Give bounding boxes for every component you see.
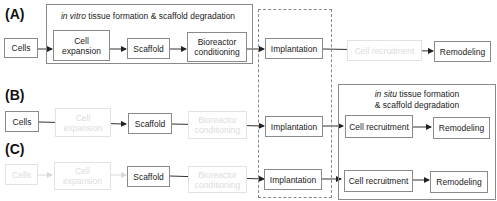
- step-cell-expansion-a: Cellexpansion: [53, 30, 110, 61]
- step-label: Bioreactor: [198, 170, 237, 180]
- step-cell-recruitment-a: Cell recruitment: [347, 40, 422, 61]
- caption-italic: in vitro: [61, 11, 86, 21]
- in-vitro-caption: in vitro tissue formation & scaffold deg…: [48, 11, 248, 22]
- step-cells-c: Cells: [5, 164, 38, 185]
- step-label: Scaffold: [133, 44, 164, 54]
- step-label: Cell: [74, 36, 89, 46]
- step-label: Scaffold: [135, 119, 166, 129]
- step-cell-expansion-b: Cellexpansion: [55, 108, 111, 137]
- step-label: expansion: [63, 176, 102, 186]
- step-label: Implantation: [271, 122, 317, 132]
- step-cells-b: Cells: [5, 111, 39, 132]
- step-remodeling-b: Remodeling: [433, 117, 490, 139]
- step-label: Remodeling: [440, 47, 485, 57]
- caption-line2: & scaffold degradation: [340, 100, 494, 111]
- step-label: Bioreactor: [198, 115, 237, 125]
- in-situ-caption: in situ tissue formation & scaffold degr…: [340, 89, 494, 111]
- step-label: Implantation: [270, 175, 316, 185]
- step-label: Remodeling: [439, 123, 484, 133]
- step-remodeling-c: Remodeling: [430, 171, 488, 193]
- panel-label-b: (B): [5, 87, 24, 103]
- step-implantation-b: Implantation: [265, 116, 323, 137]
- step-cell-recruitment-b: Cell recruitment: [345, 115, 413, 138]
- step-label: Cell recruitment: [349, 122, 409, 132]
- step-label: expansion: [62, 46, 101, 56]
- step-label: conditioning: [194, 47, 239, 57]
- step-scaffold-b: Scaffold: [128, 113, 172, 134]
- step-label: Cell recruitment: [355, 46, 415, 56]
- step-implantation-c: Implantation: [264, 169, 322, 190]
- step-label: Cell: [75, 166, 90, 176]
- step-scaffold-c: Scaffold: [127, 166, 170, 187]
- step-label: Bioreactor: [198, 37, 237, 47]
- step-label: Implantation: [271, 44, 317, 54]
- step-label: Remodeling: [436, 177, 481, 187]
- step-cell-expansion-c: Cellexpansion: [54, 162, 111, 190]
- panel-label-c: (C): [5, 141, 24, 157]
- step-label: Cell recruitment: [349, 176, 409, 186]
- step-label: Cell: [76, 113, 91, 123]
- step-scaffold-a: Scaffold: [127, 38, 170, 59]
- caption-rest: tissue formation & scaffold degradation: [86, 11, 235, 21]
- step-label: Cells: [12, 43, 31, 53]
- step-label: expansion: [64, 123, 103, 133]
- step-bioreactor-b: Bioreactorconditioning: [188, 111, 247, 139]
- step-implantation-a: Implantation: [265, 38, 323, 59]
- step-label: Scaffold: [133, 172, 164, 182]
- step-label: conditioning: [195, 125, 240, 135]
- step-label: Cells: [12, 170, 31, 180]
- step-bioreactor-c: Bioreactorconditioning: [188, 166, 247, 193]
- caption-rest: tissue formation: [397, 89, 459, 99]
- step-label: conditioning: [195, 180, 240, 190]
- step-cells-a: Cells: [4, 38, 38, 58]
- caption-italic: in situ: [375, 89, 397, 99]
- panel-label-a: (A): [5, 6, 24, 22]
- step-cell-recruitment-c: Cell recruitment: [344, 170, 413, 192]
- step-label: Cells: [13, 117, 32, 127]
- step-bioreactor-a: Bioreactorconditioning: [187, 32, 247, 62]
- step-remodeling-a: Remodeling: [434, 41, 491, 62]
